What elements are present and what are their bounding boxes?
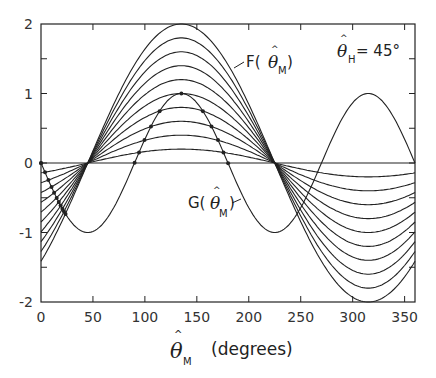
y-tick-label: 0 bbox=[24, 155, 33, 171]
intersection-dot bbox=[46, 178, 50, 182]
svg-text:^: ^ bbox=[174, 329, 182, 340]
intersection-dot bbox=[137, 150, 141, 154]
y-tick-labels: -2-1012 bbox=[19, 16, 33, 310]
intersection-dot bbox=[133, 161, 137, 165]
y-tick-label: 1 bbox=[24, 86, 33, 102]
svg-text:H: H bbox=[348, 54, 356, 65]
svg-text:^: ^ bbox=[271, 44, 279, 54]
intersection-dot bbox=[64, 212, 68, 216]
y-tick-label: 2 bbox=[24, 16, 33, 32]
intersection-dot bbox=[55, 196, 59, 200]
y-tick-label: -2 bbox=[19, 294, 33, 310]
intersection-dot bbox=[158, 109, 162, 113]
g-label: G( θ ^ M ) bbox=[188, 185, 241, 219]
svg-text:M: M bbox=[278, 65, 287, 76]
f-label: F( θ ^ M ) bbox=[234, 44, 293, 76]
svg-text:^: ^ bbox=[340, 33, 348, 43]
y-tick-label: -1 bbox=[19, 225, 33, 241]
svg-text:F(: F( bbox=[246, 53, 260, 71]
svg-text:θ: θ bbox=[337, 41, 347, 61]
svg-text:= 45°: = 45° bbox=[356, 42, 400, 60]
theta-h-label: θ ^ H = 45° bbox=[337, 33, 400, 65]
svg-text:(degrees): (degrees) bbox=[211, 339, 293, 359]
x-tick-label: 250 bbox=[287, 309, 314, 325]
svg-text:θ: θ bbox=[170, 339, 183, 363]
x-tick-label: 150 bbox=[183, 309, 210, 325]
intersection-dot bbox=[149, 124, 153, 128]
intersection-dot bbox=[210, 124, 214, 128]
svg-text:^: ^ bbox=[213, 185, 221, 195]
intersection-dot bbox=[226, 161, 230, 165]
x-tick-label: 300 bbox=[339, 309, 366, 325]
intersection-dot bbox=[50, 185, 54, 189]
x-axis-label: θ ^ M (degrees) bbox=[170, 329, 293, 367]
svg-text:G(: G( bbox=[188, 194, 205, 212]
x-tick-label: 50 bbox=[84, 309, 102, 325]
svg-text:M: M bbox=[219, 208, 228, 219]
svg-text:): ) bbox=[229, 194, 235, 212]
intersection-dot bbox=[39, 161, 43, 165]
chart: 050100150200250300350 -2-1012 F( θ ^ M )… bbox=[0, 0, 436, 378]
svg-text:θ: θ bbox=[268, 52, 278, 72]
x-tick-label: 0 bbox=[37, 309, 46, 325]
intersection-dot bbox=[43, 170, 47, 174]
intersection-dot bbox=[201, 109, 205, 113]
intersection-dot bbox=[221, 150, 225, 154]
svg-text:): ) bbox=[287, 53, 293, 71]
intersection-dot bbox=[57, 200, 61, 204]
svg-text:M: M bbox=[183, 356, 192, 367]
intersection-dot bbox=[142, 138, 146, 142]
x-tick-label: 100 bbox=[132, 309, 159, 325]
intersection-dot bbox=[216, 138, 220, 142]
x-tick-label: 200 bbox=[235, 309, 262, 325]
x-tick-labels: 050100150200250300350 bbox=[37, 309, 418, 325]
intersection-dot bbox=[179, 92, 183, 96]
intersection-dot bbox=[52, 191, 56, 195]
x-tick-label: 350 bbox=[391, 309, 418, 325]
